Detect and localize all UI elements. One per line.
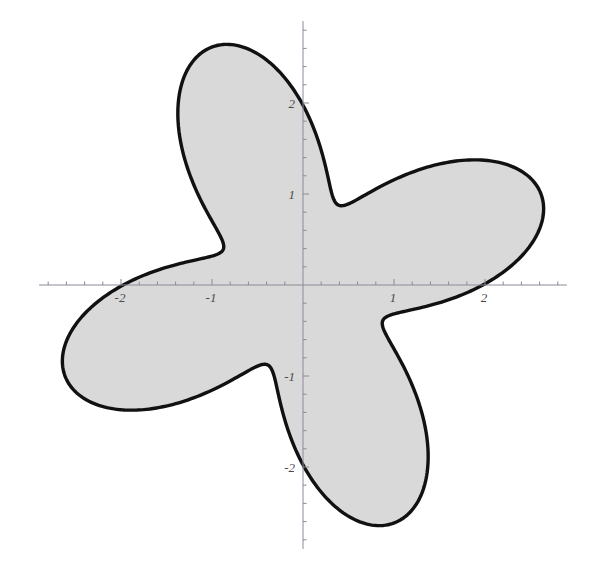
- axis-tick-label: 2: [289, 96, 296, 111]
- axis-tick-label: 1: [289, 187, 296, 202]
- plot-canvas: -2-112 -2-112: [0, 0, 599, 579]
- axis-tick-label: 1: [390, 290, 397, 305]
- axis-tick-label: 2: [481, 290, 488, 305]
- polar-plot-figure: -2-112 -2-112: [0, 0, 599, 579]
- axis-tick-label: -1: [206, 290, 217, 305]
- axis-tick-label: -1: [284, 369, 295, 384]
- axis-tick-label: -2: [284, 460, 295, 475]
- axis-tick-label: -2: [115, 290, 126, 305]
